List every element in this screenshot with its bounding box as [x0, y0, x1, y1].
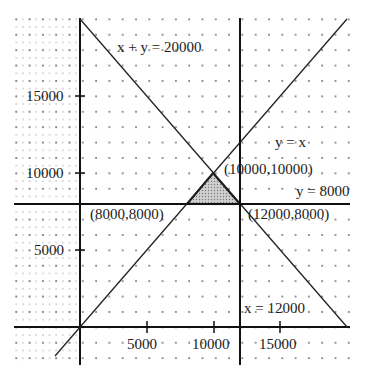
- label-y-equals-x: y = x: [275, 134, 306, 150]
- label-x-12000: x = 12000: [244, 300, 305, 316]
- x-tick-label-15000: 15000: [259, 336, 297, 352]
- label-vertex-top: (10000,10000): [224, 161, 313, 178]
- dot-grid-dense-left: [12, 18, 80, 365]
- x-tick-label-5000: 5000: [127, 336, 157, 352]
- y-tick-label-15000: 15000: [26, 88, 64, 104]
- y-tick-label-10000: 10000: [26, 165, 64, 181]
- label-vertex-right: (12000,8000): [248, 206, 329, 223]
- label-y-8000: y = 8000: [296, 183, 349, 199]
- x-tick-label-10000: 10000: [192, 336, 230, 352]
- label-vertex-left: (8000,8000): [90, 206, 164, 223]
- y-tick-label-5000: 5000: [34, 242, 64, 258]
- feasible-region-chart: x + y = 20000 y = x (10000,10000) y = 80…: [0, 0, 372, 365]
- label-x-plus-y: x + y = 20000: [117, 39, 201, 55]
